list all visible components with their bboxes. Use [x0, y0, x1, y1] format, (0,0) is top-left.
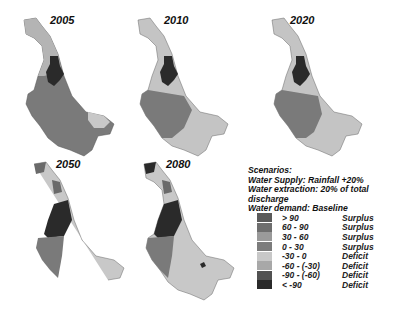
legend-row: 30 - 60 Surplus	[257, 232, 374, 242]
legend-range: > 90	[282, 213, 342, 223]
legend-class: Deficit	[342, 251, 368, 261]
legend-class: Surplus	[342, 232, 374, 242]
legend-swatch	[257, 223, 272, 232]
legend-class: Surplus	[342, 213, 374, 223]
map-2010: 2010	[128, 16, 238, 161]
legend-range: 30 - 60	[282, 232, 342, 242]
legend-row: -60 - (-30) Deficit	[257, 261, 374, 271]
legend-range: < -90	[282, 280, 342, 290]
legend-class: Surplus	[342, 242, 374, 252]
legend-class: Deficit	[342, 261, 368, 271]
legend-range: 60 - 90	[282, 222, 342, 232]
legend-swatch	[257, 261, 272, 270]
legend-swatch	[257, 252, 272, 261]
year-label: 2010	[164, 14, 188, 26]
map-2020: 2020	[262, 16, 372, 161]
scenario-line: Water extraction: 20% of total discharge	[248, 185, 398, 204]
legend-row: -30 - 0 Deficit	[257, 251, 374, 261]
legend-swatch	[257, 213, 272, 222]
legend-class: Surplus	[342, 222, 374, 232]
year-label: 2005	[50, 14, 74, 26]
year-label: 2080	[166, 158, 190, 170]
legend-swatch	[257, 232, 272, 241]
legend-range: -60 - (-30)	[282, 261, 342, 271]
legend-range: -30 - 0	[282, 251, 342, 261]
map-2080: 2080	[134, 160, 244, 305]
year-label: 2050	[56, 158, 80, 170]
legend-swatch	[257, 242, 272, 251]
legend-swatch	[257, 280, 272, 289]
legend-range: -90 - (-60)	[282, 270, 342, 280]
legend-row: > 90 Surplus	[257, 213, 374, 223]
legend-row: < -90 Deficit	[257, 280, 374, 290]
legend-class: Deficit	[342, 280, 368, 290]
legend-range: 0 - 30	[282, 242, 342, 252]
legend: > 90 Surplus 60 - 90 Surplus 30 - 60 Sur…	[257, 213, 374, 290]
legend-swatch	[257, 271, 272, 280]
legend-row: 60 - 90 Surplus	[257, 223, 374, 233]
legend-row: -90 - (-60) Deficit	[257, 271, 374, 281]
map-2005: 2005	[14, 16, 124, 161]
legend-row: 0 - 30 Surplus	[257, 242, 374, 252]
legend-class: Deficit	[342, 270, 368, 280]
scenarios-block: Scenarios: Water Supply: Rainfall +20% W…	[248, 166, 398, 214]
map-2050: 2050	[24, 160, 134, 305]
year-label: 2020	[290, 14, 314, 26]
